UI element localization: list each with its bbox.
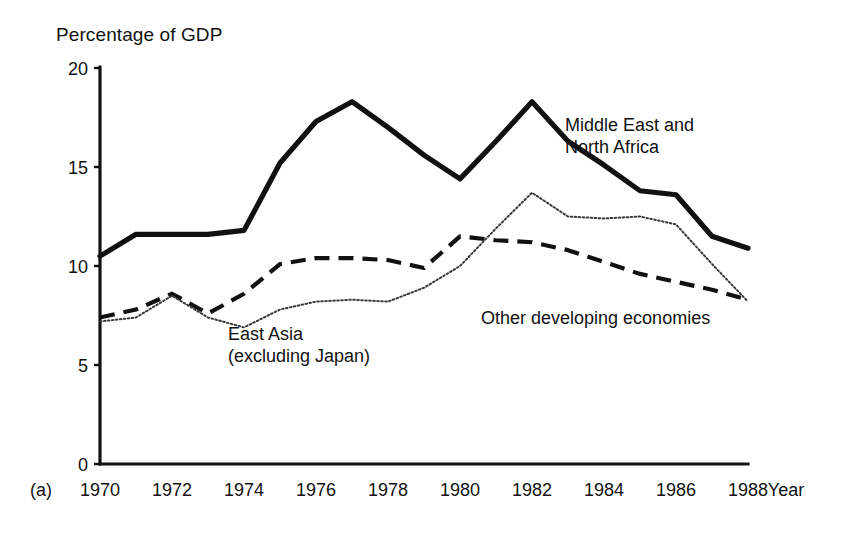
series-label-other-developing: Other developing economies	[481, 308, 710, 328]
x-tick-label-1972: 1972	[152, 480, 192, 500]
x-tick-label-1982: 1982	[512, 480, 552, 500]
x-tick-label-1974: 1974	[224, 480, 264, 500]
x-tick-label-1980: 1980	[440, 480, 480, 500]
x-tick-label-1976: 1976	[296, 480, 336, 500]
x-tick-label-1984: 1984	[584, 480, 624, 500]
panel-label: (a)	[30, 480, 52, 500]
series-label-line-2: North Africa	[565, 137, 660, 157]
chart-canvas: 20 15 10 5 0 1970 1972 1974 1976 1978 19…	[0, 0, 846, 545]
series-label-east-asia: East Asia (excluding Japan)	[228, 324, 370, 366]
y-tick-label-5: 5	[78, 356, 88, 376]
x-tick-label-1986: 1986	[656, 480, 696, 500]
figure-panel: Percentage of GDP 20 15 10 5 0 1970 1972…	[0, 0, 846, 545]
y-tick-label-15: 15	[68, 158, 88, 178]
x-axis-title: Year	[768, 480, 804, 500]
series-label-line-2: (excluding Japan)	[228, 346, 370, 366]
y-tick-label-0: 0	[78, 455, 88, 475]
series-label-line-1: Other developing economies	[481, 308, 710, 328]
x-tick-label-1978: 1978	[368, 480, 408, 500]
x-tick-label-1970: 1970	[80, 480, 120, 500]
y-tick-label-10: 10	[68, 257, 88, 277]
series-line-east-asia	[100, 236, 748, 317]
y-tick-label-20: 20	[68, 59, 88, 79]
series-label-line-1: East Asia	[228, 324, 304, 344]
series-label-middle-east-north-africa: Middle East and North Africa	[565, 115, 694, 157]
x-tick-label-1988: 1988	[728, 480, 768, 500]
series-label-line-1: Middle East and	[565, 115, 694, 135]
